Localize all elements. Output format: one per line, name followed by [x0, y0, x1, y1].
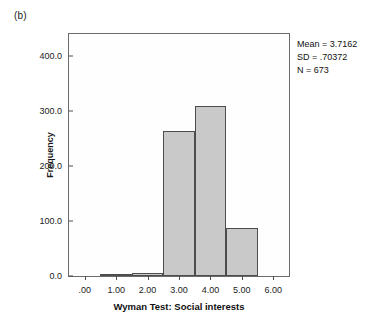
- x-tick-label: 2.00: [139, 285, 157, 295]
- x-tick-label: 6.00: [265, 285, 283, 295]
- x-tick-mark: [148, 276, 149, 280]
- x-axis-label: Wyman Test: Social interests: [113, 301, 244, 312]
- stat-n: N = 673: [297, 64, 357, 77]
- y-tick-mark: [69, 166, 73, 167]
- x-tick-label: 4.00: [202, 285, 220, 295]
- statistics-annotation: Mean = 3.7162 SD = .70372 N = 673: [297, 38, 357, 77]
- x-tick-mark: [85, 276, 86, 280]
- histogram-figure: (b) Frequency Wyman Test: Social interes…: [0, 0, 366, 334]
- x-tick-label: 3.00: [170, 285, 188, 295]
- x-tick-label: 5.00: [233, 285, 251, 295]
- histogram-bar: [226, 228, 257, 276]
- x-tick-mark: [179, 276, 180, 280]
- y-tick-mark: [69, 111, 73, 112]
- stat-mean: Mean = 3.7162: [297, 38, 357, 51]
- stat-sd: SD = .70372: [297, 51, 357, 64]
- y-tick-label: 100.0: [39, 216, 69, 226]
- x-tick-label: .00: [78, 285, 91, 295]
- x-tick-mark: [116, 276, 117, 280]
- y-tick-mark: [69, 276, 73, 277]
- y-tick-label: 200.0: [39, 161, 69, 171]
- histogram-bar: [163, 131, 194, 276]
- plot-area: Frequency Wyman Test: Social interests 0…: [68, 33, 290, 277]
- x-tick-mark: [210, 276, 211, 280]
- x-tick-label: 1.00: [107, 285, 125, 295]
- y-tick-label: 300.0: [39, 106, 69, 116]
- x-tick-mark: [273, 276, 274, 280]
- y-tick-label: 0.0: [49, 271, 69, 281]
- panel-label: (b): [14, 10, 27, 21]
- x-tick-mark: [242, 276, 243, 280]
- y-tick-mark: [69, 221, 73, 222]
- y-tick-mark: [69, 56, 73, 57]
- bar-series: [69, 34, 289, 276]
- histogram-bar: [195, 106, 226, 277]
- y-tick-label: 400.0: [39, 51, 69, 61]
